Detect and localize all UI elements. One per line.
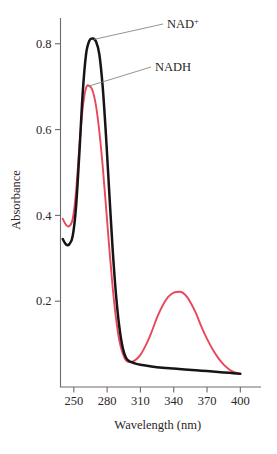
chart-canvas: 0.20.40.60.8250280310340370400 NAD+NADH …: [0, 0, 277, 454]
x-tick-label: 340: [164, 394, 183, 408]
y-tick-label: 0.2: [36, 294, 52, 308]
absorbance-spectrum-figure: 0.20.40.60.8250280310340370400 NAD+NADH …: [0, 0, 277, 454]
y-tick-label: 0.6: [36, 123, 52, 137]
series-annotations: NAD+NADH: [87, 16, 199, 87]
y-tick-label: 0.8: [36, 37, 52, 51]
x-tick-label: 310: [131, 394, 150, 408]
y-axis-title: Absorbance: [9, 170, 23, 230]
x-axis-title: Wavelength (nm): [114, 418, 201, 432]
series-label-nadplus: NAD+: [167, 16, 199, 32]
series-label-nadh: NADH: [155, 60, 191, 74]
y-tick-label: 0.4: [36, 209, 52, 223]
axes: 0.20.40.60.8250280310340370400: [36, 18, 261, 408]
x-tick-label: 370: [198, 394, 217, 408]
leader-line-nadh: [87, 67, 151, 87]
curve-nadplus: [63, 38, 241, 373]
curve-nadh: [63, 85, 241, 374]
data-curves: [63, 38, 241, 374]
x-tick-label: 250: [64, 394, 83, 408]
x-tick-label: 280: [98, 394, 117, 408]
x-tick-label: 400: [231, 394, 250, 408]
leader-line-nadplus: [94, 24, 163, 39]
